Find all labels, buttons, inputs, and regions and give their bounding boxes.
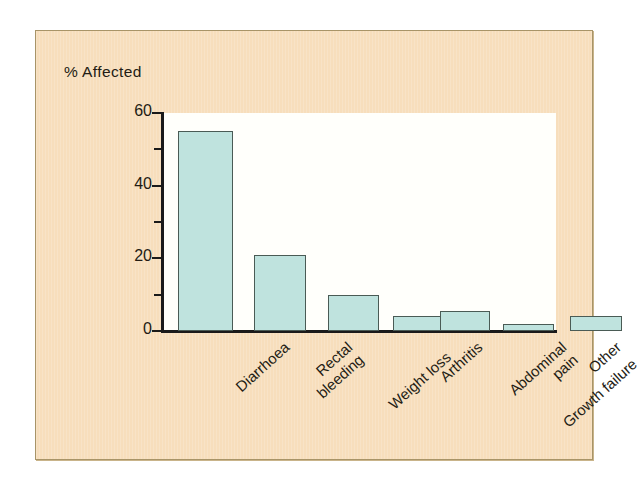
y-tick-label: 0 (112, 320, 152, 338)
y-minor-tick-mark (154, 221, 161, 223)
y-minor-tick-mark (154, 294, 161, 296)
x-axis-category-line: Diarrhoea (233, 339, 293, 396)
bar[interactable] (570, 316, 622, 331)
y-axis-title: % Affected (64, 63, 142, 81)
bar[interactable] (503, 324, 554, 331)
bar[interactable] (254, 255, 306, 331)
bar[interactable] (393, 316, 441, 331)
y-tick-label: 60 (112, 102, 152, 120)
y-tick-label: 40 (112, 175, 152, 193)
y-tick-mark (152, 185, 161, 187)
bar[interactable] (328, 295, 379, 331)
y-tick-label: 20 (112, 247, 152, 265)
y-tick-mark (152, 257, 161, 259)
y-tick-mark (152, 330, 161, 332)
y-tick-mark (152, 112, 161, 114)
x-axis-category-label: Rectalbleeding (303, 339, 368, 402)
figure-panel: % Affected 0204060 DiarrhoeaRectalbleedi… (35, 30, 593, 460)
x-axis-category-label: Abdominalpain (506, 339, 581, 411)
x-axis-category-label: Diarrhoea (233, 339, 293, 396)
bars-layer (163, 113, 556, 331)
y-minor-tick-mark (154, 148, 161, 150)
bar[interactable] (440, 311, 490, 331)
bar[interactable] (178, 131, 233, 331)
